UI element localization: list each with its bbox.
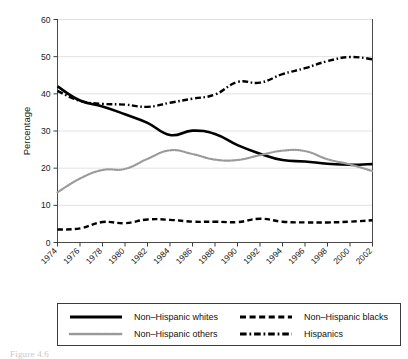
legend-box — [58, 304, 401, 346]
figure-container: 0102030405060 19741976197819801982198419… — [0, 0, 408, 359]
figure-caption: Figure 4.6 — [10, 349, 49, 359]
y-tick-label: 50 — [41, 52, 51, 62]
legend-label: Hispanics — [304, 329, 344, 339]
y-axis-title: Percentage — [21, 107, 32, 156]
line-chart: 0102030405060 19741976197819801982198419… — [0, 0, 408, 359]
y-tick-label: 40 — [41, 89, 51, 99]
y-tick-label: 10 — [41, 200, 51, 210]
legend-label: Non–Hispanic blacks — [304, 312, 389, 322]
y-tick-label: 30 — [41, 126, 51, 136]
y-tick-label: 0 — [46, 238, 51, 248]
y-tick-label: 60 — [41, 15, 51, 25]
y-tick-label: 20 — [41, 163, 51, 173]
legend-label: Non–Hispanic whites — [134, 312, 219, 322]
legend-label: Non–Hispanic others — [134, 329, 218, 339]
